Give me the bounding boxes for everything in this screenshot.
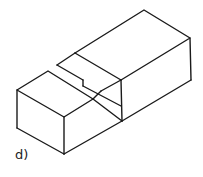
figure-label: d): [15, 147, 28, 162]
large-block: [75, 10, 191, 121]
small-block: [17, 71, 122, 154]
tongue-piece: [57, 53, 122, 121]
isometric-block-drawing: [0, 0, 203, 177]
